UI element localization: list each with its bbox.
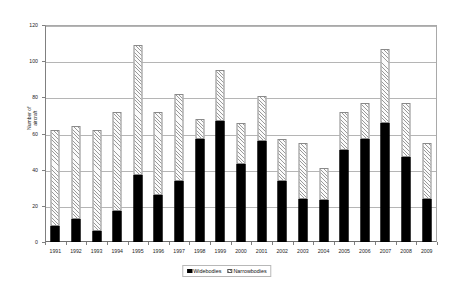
bar-segment-narrowbodies[interactable] xyxy=(175,94,184,181)
stacked-bar[interactable] xyxy=(113,112,122,242)
bar-segment-widebodies[interactable] xyxy=(298,199,307,242)
bar-segment-widebodies[interactable] xyxy=(51,226,60,242)
bar-segment-widebodies[interactable] xyxy=(175,181,184,242)
x-axis-tick-mark xyxy=(396,242,397,245)
x-axis: 1991199219931994199519961997199819992000… xyxy=(45,242,437,262)
bar-segment-narrowbodies[interactable] xyxy=(257,96,266,141)
stacked-bar[interactable] xyxy=(298,143,307,242)
bar-segment-narrowbodies[interactable] xyxy=(319,168,328,201)
x-axis-tick-mark xyxy=(107,242,108,245)
bar-segment-widebodies[interactable] xyxy=(195,139,204,242)
stacked-bar[interactable] xyxy=(381,49,390,242)
stacked-bar[interactable] xyxy=(319,168,328,242)
stacked-bar[interactable] xyxy=(236,123,245,242)
bar-segment-narrowbodies[interactable] xyxy=(402,103,411,157)
x-axis-tick-mark xyxy=(189,242,190,245)
bar-group xyxy=(107,25,128,242)
bar-group xyxy=(354,25,375,242)
bar-segment-narrowbodies[interactable] xyxy=(236,123,245,165)
legend-label-widebodies: Widebodies xyxy=(193,268,221,275)
bar-segment-widebodies[interactable] xyxy=(92,231,101,242)
stacked-bar[interactable] xyxy=(92,130,101,242)
x-axis-tick-mark xyxy=(231,242,232,245)
x-axis-tick-mark xyxy=(313,242,314,245)
x-axis-tick-mark xyxy=(375,242,376,245)
bar-segment-narrowbodies[interactable] xyxy=(381,49,390,123)
bar-segment-narrowbodies[interactable] xyxy=(71,126,80,218)
bar-segment-narrowbodies[interactable] xyxy=(298,143,307,199)
bar-segment-narrowbodies[interactable] xyxy=(195,119,204,139)
x-axis-tick-mark xyxy=(86,242,87,245)
bar-segment-narrowbodies[interactable] xyxy=(113,112,122,211)
bar-group xyxy=(86,25,107,242)
y-axis-tick-label: 120 xyxy=(12,22,38,28)
bar-group xyxy=(128,25,149,242)
bar-segment-widebodies[interactable] xyxy=(133,175,142,242)
stacked-bar[interactable] xyxy=(340,112,349,242)
x-axis-tick-mark xyxy=(416,242,417,245)
bar-group xyxy=(293,25,314,242)
stacked-bar[interactable] xyxy=(257,96,266,242)
bar-segment-narrowbodies[interactable] xyxy=(133,45,142,175)
bar-group xyxy=(272,25,293,242)
stacked-bar[interactable] xyxy=(402,103,411,242)
bars-layer xyxy=(45,25,437,242)
bar-group xyxy=(189,25,210,242)
x-axis-tick-mark xyxy=(354,242,355,245)
stacked-bar[interactable] xyxy=(195,119,204,242)
legend-entry-widebodies: Widebodies xyxy=(187,268,221,275)
bar-segment-narrowbodies[interactable] xyxy=(154,112,163,195)
y-axis-title-line2: aircraft xyxy=(32,111,38,126)
stacked-bar[interactable] xyxy=(216,70,225,242)
bar-segment-narrowbodies[interactable] xyxy=(422,143,431,199)
stacked-bar[interactable] xyxy=(422,143,431,242)
bar-segment-widebodies[interactable] xyxy=(236,164,245,242)
bar-segment-narrowbodies[interactable] xyxy=(216,70,225,121)
stacked-bar[interactable] xyxy=(51,130,60,242)
bar-segment-widebodies[interactable] xyxy=(257,141,266,242)
bar-segment-widebodies[interactable] xyxy=(340,150,349,242)
x-axis-tick-mark xyxy=(210,242,211,245)
bar-segment-widebodies[interactable] xyxy=(360,139,369,242)
bar-segment-widebodies[interactable] xyxy=(71,219,80,243)
legend-swatch-narrowbodies xyxy=(227,269,232,274)
bar-segment-narrowbodies[interactable] xyxy=(51,130,60,226)
bar-segment-widebodies[interactable] xyxy=(402,157,411,242)
x-axis-tick-mark xyxy=(66,242,67,245)
bar-group xyxy=(231,25,252,242)
x-axis-tick-mark xyxy=(334,242,335,245)
bar-segment-widebodies[interactable] xyxy=(319,200,328,242)
bar-group xyxy=(334,25,355,242)
y-axis-tick-label: 0 xyxy=(12,239,38,245)
x-axis-tick-mark xyxy=(128,242,129,245)
stacked-bar[interactable] xyxy=(71,126,80,242)
bar-group xyxy=(169,25,190,242)
bar-segment-widebodies[interactable] xyxy=(422,199,431,242)
stacked-bar[interactable] xyxy=(278,139,287,242)
stacked-column-chart: 020406080100120 Number of aircraft 19911… xyxy=(0,0,454,284)
legend-entry-narrowbodies: Narrowbodies xyxy=(227,268,266,275)
bar-segment-narrowbodies[interactable] xyxy=(92,130,101,231)
bar-group xyxy=(251,25,272,242)
bar-segment-widebodies[interactable] xyxy=(154,195,163,242)
bar-group xyxy=(313,25,334,242)
x-axis-tick-mark xyxy=(437,242,438,245)
x-axis-tick-mark xyxy=(251,242,252,245)
stacked-bar[interactable] xyxy=(133,45,142,242)
y-axis-title: Number of aircraft xyxy=(26,83,38,153)
bar-segment-widebodies[interactable] xyxy=(278,181,287,242)
bar-segment-narrowbodies[interactable] xyxy=(278,139,287,181)
y-axis-tick-label: 40 xyxy=(12,167,38,173)
stacked-bar[interactable] xyxy=(360,103,369,242)
bar-segment-widebodies[interactable] xyxy=(381,123,390,242)
bar-segment-widebodies[interactable] xyxy=(216,121,225,242)
x-axis-tick-mark xyxy=(293,242,294,245)
x-axis-tick-mark xyxy=(45,242,46,245)
bar-segment-widebodies[interactable] xyxy=(113,211,122,242)
bar-segment-narrowbodies[interactable] xyxy=(340,112,349,150)
bar-segment-narrowbodies[interactable] xyxy=(360,103,369,139)
bar-group xyxy=(375,25,396,242)
stacked-bar[interactable] xyxy=(175,94,184,242)
bar-group xyxy=(45,25,66,242)
stacked-bar[interactable] xyxy=(154,112,163,242)
